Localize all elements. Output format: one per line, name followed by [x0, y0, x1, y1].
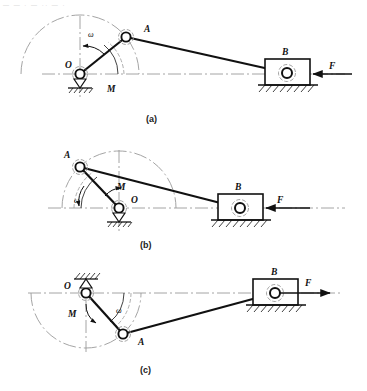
panel-c-label-o: O: [64, 281, 71, 291]
panel-c-caption: (c): [140, 365, 151, 375]
panel-c-pivot-o: [81, 288, 90, 297]
figure-background: [0, 0, 367, 391]
panel-b-caption: (b): [140, 240, 152, 250]
panel-c-pin-a: [118, 329, 127, 338]
panel-a-label-omega: ω: [88, 30, 94, 39]
panel-a-slider-pin: [282, 68, 292, 78]
mechanism-figure: — — · — ·· — ·: [0, 0, 367, 391]
panel-a-label-f: F: [328, 61, 336, 71]
panel-b-label-f: F: [276, 195, 284, 205]
panel-a-caption: (a): [146, 114, 157, 124]
panel-a-label-a: A: [143, 24, 150, 34]
panel-b-label-b: B: [234, 182, 241, 192]
panel-a-label-b: B: [281, 47, 288, 57]
panel-a-pin-a: [121, 32, 130, 41]
panel-c-label-f: F: [304, 278, 312, 288]
panel-b-pin-a: [75, 162, 84, 171]
panel-b-pivot-o: [114, 203, 123, 212]
panel-a-label-m: M: [106, 84, 116, 94]
panel-c-label-b: B: [270, 267, 277, 277]
panel-c-slider-pin: [270, 288, 280, 298]
panel-c-label-omega: ω: [116, 306, 122, 315]
panel-c-label-a: A: [137, 337, 144, 347]
panel-a-pivot-o: [75, 69, 84, 78]
panel-c-label-m: M: [67, 309, 77, 319]
panel-b-label-a: A: [63, 150, 70, 160]
panel-a-label-o: O: [65, 60, 72, 70]
scan-artifact-text: — — · — ·· — ·: [3, 2, 66, 8]
panel-b-label-m: M: [116, 182, 126, 192]
panel-b-label-o: O: [131, 195, 138, 205]
panel-b-label-omega: ω: [74, 196, 80, 205]
panel-b-slider-pin: [235, 203, 245, 213]
